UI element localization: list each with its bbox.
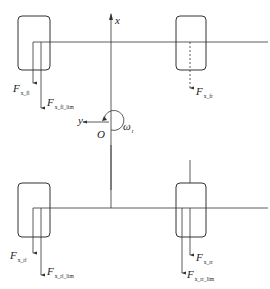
- force-label-fl: Fx_fl: [13, 79, 30, 97]
- x-axis-arrow-icon: [109, 13, 113, 20]
- vehicle-force-diagram: x y O ωr Fx_fl Fx_fl_lim Fx_fr Fx_rl Fx_…: [0, 0, 270, 289]
- wheel-rear-right: [176, 183, 206, 237]
- diagram-graphics: [0, 0, 270, 289]
- force-label-rr-lim: Fx_rr_lim: [187, 265, 214, 283]
- force-label-fr: Fx_fr: [196, 82, 213, 100]
- yaw-rate-arc: [104, 110, 124, 130]
- y-axis-label: y: [78, 111, 83, 127]
- yaw-rate-label: ωr: [123, 117, 134, 135]
- wheel-rear-left: [18, 183, 50, 237]
- force-label-rr: Fx_rr: [196, 248, 213, 266]
- wheel-front-left: [18, 16, 50, 70]
- wheel-front-right: [176, 16, 206, 70]
- origin-label: O: [97, 125, 105, 141]
- force-label-rl-lim: Fx_rl_lim: [47, 262, 74, 280]
- yaw-rate-arrow-icon: [102, 116, 107, 121]
- force-label-fl-lim: Fx_fl_lim: [47, 93, 74, 111]
- force-label-rl: Fx_rl: [10, 246, 27, 264]
- x-axis-label: x: [115, 11, 120, 27]
